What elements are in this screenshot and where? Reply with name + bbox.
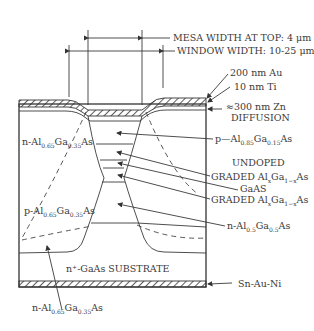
label-au: 200 nm Au bbox=[230, 67, 282, 78]
junction-left-lower bbox=[22, 226, 92, 240]
top-contact-metal bbox=[19, 98, 206, 116]
label-contact: Sn-Au-Ni bbox=[238, 278, 281, 289]
label-diffusion: DIFFUSION bbox=[231, 112, 290, 123]
junction-right-lower bbox=[137, 225, 206, 238]
label-n-clad: n-Al0.5Ga0.5As bbox=[227, 220, 290, 233]
bottom-contact-metal bbox=[19, 281, 206, 287]
label-p-region: p-Al0.65Ga0.35As bbox=[24, 205, 95, 218]
label-undoped: UNDOPED bbox=[232, 157, 285, 168]
label-ti: 10 nm Ti bbox=[234, 81, 277, 92]
junction-left-upper bbox=[22, 112, 86, 238]
window-width-label: WINDOW WIDTH: 10-25 μm bbox=[177, 45, 314, 56]
label-gaas: GaAS bbox=[240, 183, 267, 194]
label-bottom-n-region: n-Al0.65Ga0.35As bbox=[32, 302, 103, 315]
label-graded-2: GRADED AlxGa1−xAs bbox=[211, 194, 308, 207]
device-diagram: MESA WIDTH AT TOP: 4 μm WINDOW WIDTH: 10… bbox=[0, 0, 314, 331]
mesa-width-label: MESA WIDTH AT TOP: 4 μm bbox=[173, 32, 311, 43]
channel-right-edge bbox=[124, 116, 164, 252]
device-body bbox=[19, 104, 206, 287]
label-p-cap: p—Al0.85Ga0.15As bbox=[215, 133, 292, 146]
label-substrate: n⁺-GaAs SUBSTRATE bbox=[66, 263, 170, 274]
junction-right-upper bbox=[146, 112, 198, 194]
dimension-lines bbox=[69, 30, 175, 105]
label-zn: ≈300 nm Zn bbox=[226, 101, 286, 112]
label-n-region: n-Al0.65Ga0.35As bbox=[22, 136, 93, 149]
